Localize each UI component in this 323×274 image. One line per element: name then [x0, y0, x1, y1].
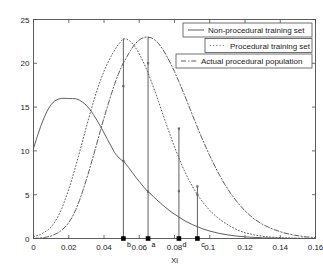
- x-tick-label: 0: [31, 243, 36, 252]
- stem-label-b: b: [127, 241, 131, 248]
- stem-crossing-marker: [147, 191, 149, 193]
- x-tick-label: 0.04: [96, 243, 112, 252]
- stem-marker-a: [146, 236, 151, 241]
- x-tick-label: 0.14: [272, 243, 288, 252]
- x-tick-label: 0.02: [61, 243, 77, 252]
- stem-crossing-marker: [122, 85, 124, 87]
- x-tick-label: 0.12: [237, 243, 253, 252]
- x-tick-label: 0.08: [167, 243, 183, 252]
- legend-label-2: Actual procedural population: [201, 57, 302, 66]
- stem-crossing-marker: [178, 127, 180, 129]
- y-tick-label: 20: [21, 59, 30, 68]
- stem-crossing-marker: [178, 190, 180, 192]
- y-tick-label: 0: [25, 235, 30, 244]
- x-tick-label: 0.16: [308, 243, 323, 252]
- stem-crossing-marker: [122, 160, 124, 162]
- y-tick-label: 25: [21, 16, 30, 25]
- stem-marker-d: [177, 236, 182, 241]
- stem-crossing-marker: [196, 194, 198, 196]
- stem-label-d: d: [182, 241, 186, 248]
- stem-label-c: c: [201, 241, 205, 248]
- y-tick-label: 15: [21, 103, 30, 112]
- stem-crossing-marker: [196, 185, 198, 187]
- x-axis-title: Xi: [171, 256, 178, 265]
- stem-marker-b: [121, 236, 126, 241]
- stem-label-a: a: [152, 241, 156, 248]
- x-tick-label: 0.1: [204, 243, 216, 252]
- stem-marker-c: [195, 236, 200, 241]
- y-tick-label: 10: [21, 147, 30, 156]
- distribution-plot: 00.020.040.060.080.10.120.140.1605101520…: [0, 0, 323, 274]
- x-tick-label: 0.06: [131, 243, 147, 252]
- chart-figure: 00.020.040.060.080.10.120.140.1605101520…: [0, 0, 323, 274]
- legend-label-0: Non-procedural training set: [208, 26, 305, 35]
- y-tick-label: 5: [25, 191, 30, 200]
- stem-crossing-marker: [147, 62, 149, 64]
- legend-label-1: Procedural training set: [230, 42, 311, 51]
